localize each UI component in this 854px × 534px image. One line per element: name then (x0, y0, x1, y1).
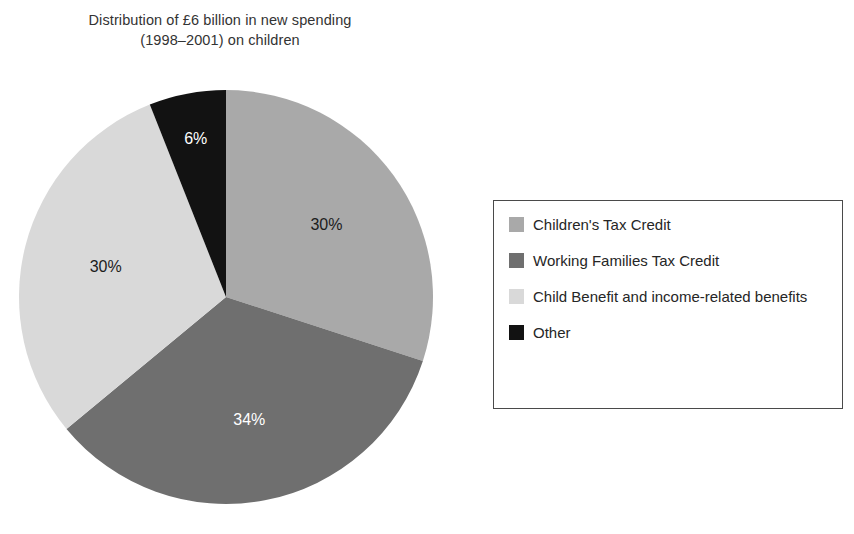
legend-item-label: Working Families Tax Credit (533, 251, 719, 270)
legend-swatch-icon (509, 217, 524, 232)
pie-slice-value-label: 6% (184, 130, 207, 147)
legend-item-label: Children's Tax Credit (533, 215, 671, 234)
legend-list: Children's Tax CreditWorking Families Ta… (509, 215, 832, 342)
pie-slice-value-label: 30% (310, 216, 342, 233)
pie-chart: 30%34%30%6% (18, 89, 434, 505)
pie-chart-svg: 30%34%30%6% (18, 89, 434, 505)
legend-item-label: Child Benefit and income-related benefit… (533, 287, 807, 306)
legend-item[interactable]: Child Benefit and income-related benefit… (509, 287, 832, 306)
pie-slice-value-label: 34% (233, 411, 265, 428)
pie-slice-value-label: 30% (90, 258, 122, 275)
legend-item-label: Other (533, 323, 571, 342)
legend-item[interactable]: Children's Tax Credit (509, 215, 832, 234)
legend-item[interactable]: Other (509, 323, 832, 342)
chart-title: Distribution of £6 billion in new spendi… (10, 10, 430, 50)
legend-swatch-icon (509, 325, 524, 340)
legend: Children's Tax CreditWorking Families Ta… (493, 200, 843, 409)
legend-swatch-icon (509, 289, 524, 304)
pie-slice-group (19, 90, 433, 504)
legend-swatch-icon (509, 253, 524, 268)
legend-item[interactable]: Working Families Tax Credit (509, 251, 832, 270)
chart-figure: Distribution of £6 billion in new spendi… (0, 0, 854, 534)
